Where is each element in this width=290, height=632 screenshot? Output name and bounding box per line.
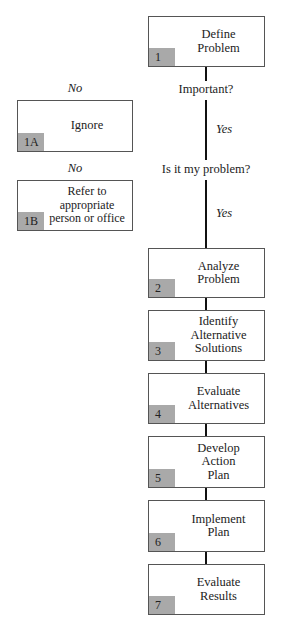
step-label: Analyze Problem [175, 249, 262, 297]
step-label: Evaluate Alternatives [175, 374, 262, 423]
side-step-refer: Refer to appropriate person or office 1B [17, 180, 133, 231]
step-evaluate-alternatives: Evaluate Alternatives 4 [148, 373, 265, 424]
decision2-no-label: No [68, 161, 83, 176]
connector-5-to-6 [205, 488, 207, 500]
step-number-badge: 3 [149, 342, 175, 360]
step-label: Define Problem [175, 17, 262, 66]
step-number-badge: 6 [149, 533, 175, 551]
step-number-badge: 1B [18, 212, 44, 230]
decision-is-it-my-problem: Is it my problem? [162, 162, 251, 177]
connector-1-to-decision1 [205, 67, 207, 81]
step-identify-alternatives: Identify Alternative Solutions 3 [148, 310, 265, 361]
decision1-yes-label: Yes [216, 122, 232, 137]
connector-decision2-to-2 [205, 180, 207, 248]
connector-2-to-3 [205, 298, 207, 310]
step-label: Identify Alternative Solutions [175, 311, 262, 360]
step-label: Refer to appropriate person or office [44, 181, 130, 230]
connector-decision1-to-decision2 [205, 100, 207, 160]
connector-6-to-7 [205, 552, 207, 564]
step-number-badge: 1 [149, 48, 175, 66]
decision1-no-label: No [68, 81, 83, 96]
step-number-badge: 5 [149, 469, 175, 487]
step-label: Evaluate Results [175, 565, 262, 614]
step-number-badge: 7 [149, 596, 175, 614]
side-step-ignore: Ignore 1A [17, 100, 133, 152]
decision-important: Important? [179, 82, 234, 97]
connector-4-to-5 [205, 424, 207, 436]
decision2-yes-label: Yes [216, 206, 232, 221]
step-number-badge: 4 [149, 405, 175, 423]
step-define-problem: Define Problem 1 [148, 16, 265, 67]
step-analyze-problem: Analyze Problem 2 [148, 248, 265, 298]
step-number-badge: 2 [149, 279, 175, 297]
step-number-badge: 1A [18, 133, 44, 151]
step-label: Implement Plan [175, 501, 262, 551]
step-implement-plan: Implement Plan 6 [148, 500, 265, 552]
step-label: Develop Action Plan [175, 437, 262, 487]
step-develop-action-plan: Develop Action Plan 5 [148, 436, 265, 488]
step-label: Ignore [44, 101, 130, 151]
connector-3-to-4 [205, 361, 207, 373]
step-evaluate-results: Evaluate Results 7 [148, 564, 265, 615]
